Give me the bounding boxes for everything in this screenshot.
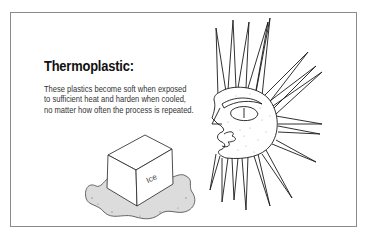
sun-face-icon <box>210 18 322 210</box>
illustration-art: Ice <box>0 0 369 241</box>
melting-ice-cube-icon <box>85 135 194 219</box>
